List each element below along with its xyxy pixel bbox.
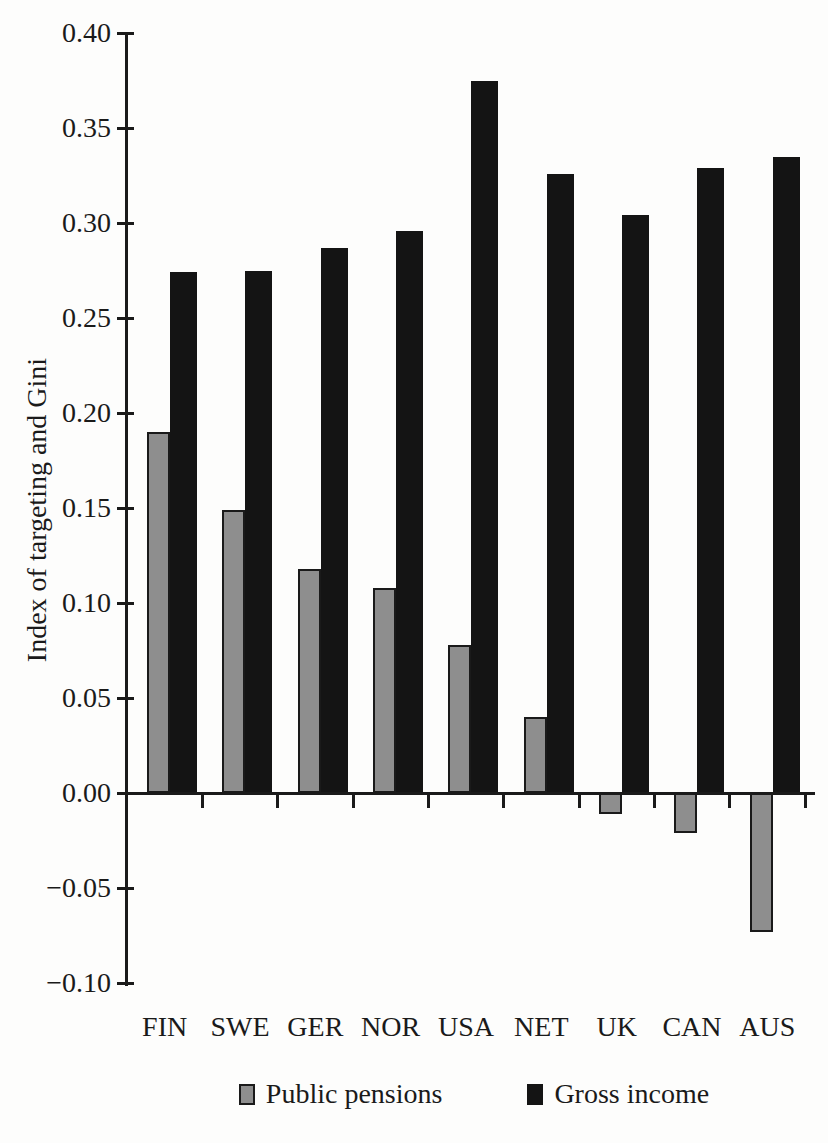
bar-net-gross-income [547,174,574,793]
bar-net-public-pensions [524,717,547,793]
bar-fin-public-pensions [147,432,170,793]
y-tick-mark-6 [117,602,134,605]
x-axis-tick-1 [201,793,204,808]
bar-aus-public-pensions [750,793,773,932]
x-axis-baseline [125,792,815,795]
bar-chart-figure: Index of targeting and Gini Public pensi… [0,0,828,1143]
y-tick-label-4: 0.20 [11,398,111,428]
y-tick-mark-5 [117,507,134,510]
legend-label-public-pensions: Public pensions [266,1078,443,1110]
y-tick-label-3: 0.25 [11,303,111,333]
bar-usa-public-pensions [448,645,471,793]
y-tick-label-1: 0.35 [11,113,111,143]
bar-uk-public-pensions [599,793,622,814]
x-axis-tick-7 [653,793,656,808]
x-category-label-fin: FIN [127,1012,202,1042]
y-tick-mark-0 [117,32,134,35]
x-category-label-net: NET [504,1012,579,1042]
legend: Public pensions Gross income [0,1078,828,1110]
bar-usa-gross-income [471,81,498,794]
x-category-label-aus: AUS [730,1012,805,1042]
y-tick-label-0: 0.40 [11,18,111,48]
y-tick-label-8: 0.00 [11,778,111,808]
x-category-label-uk: UK [579,1012,654,1042]
x-category-label-can: CAN [654,1012,729,1042]
y-tick-mark-9 [117,887,134,890]
x-axis-tick-4 [427,793,430,808]
x-axis-tick-5 [502,793,505,808]
bar-ger-public-pensions [298,569,321,793]
bar-nor-public-pensions [373,588,396,793]
bar-nor-gross-income [396,231,423,793]
y-tick-label-2: 0.30 [11,208,111,238]
x-category-label-swe: SWE [202,1012,277,1042]
bar-swe-gross-income [245,271,272,794]
y-tick-mark-1 [117,127,134,130]
bar-aus-gross-income [773,157,800,794]
x-axis-tick-9 [804,793,807,808]
y-tick-mark-10 [117,982,134,985]
y-tick-label-9: −0.05 [11,873,111,903]
bar-can-gross-income [697,168,724,793]
legend-label-gross-income: Gross income [554,1078,709,1110]
bar-can-public-pensions [674,793,697,833]
y-tick-label-7: 0.05 [11,683,111,713]
x-axis-tick-2 [276,793,279,808]
bar-uk-gross-income [622,215,649,793]
y-tick-mark-4 [117,412,134,415]
y-tick-mark-2 [117,222,134,225]
y-tick-mark-7 [117,697,134,700]
legend-swatch-public-pensions [239,1084,255,1105]
y-tick-mark-3 [117,317,134,320]
y-tick-label-6: 0.10 [11,588,111,618]
legend-swatch-gross-income [527,1084,543,1105]
x-category-label-nor: NOR [353,1012,428,1042]
x-category-label-ger: GER [278,1012,353,1042]
y-tick-label-5: 0.15 [11,493,111,523]
y-tick-label-10: −0.10 [11,968,111,998]
x-category-label-usa: USA [428,1012,503,1042]
x-axis-tick-3 [352,793,355,808]
legend-item-gross-income: Gross income [527,1078,709,1110]
x-axis-tick-8 [728,793,731,808]
bar-swe-public-pensions [222,510,245,793]
legend-item-public-pensions: Public pensions [239,1078,443,1110]
x-axis-tick-6 [578,793,581,808]
bar-fin-gross-income [170,272,197,793]
bar-ger-gross-income [321,248,348,793]
